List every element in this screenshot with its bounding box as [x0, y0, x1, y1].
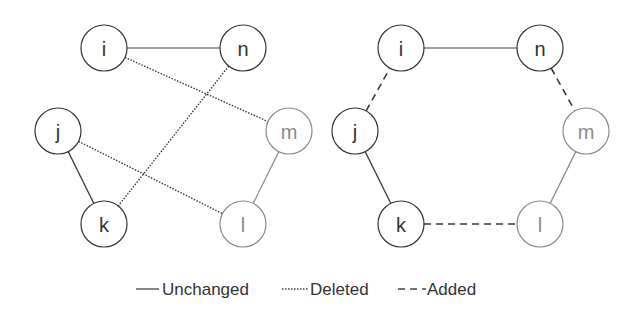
- node-after-n: n: [517, 25, 563, 71]
- node-after-m: m: [563, 108, 609, 154]
- legend-label-deleted: Deleted: [310, 280, 369, 299]
- nodes-layer: injmklinjmkl: [35, 25, 609, 247]
- node-label: j: [55, 121, 60, 143]
- legend-item-deleted: Deleted: [282, 280, 369, 299]
- legend-item-unchanged: Unchanged: [136, 280, 249, 299]
- edge-unchanged-m-l: [550, 152, 576, 204]
- node-after-i: i: [378, 25, 424, 71]
- node-after-l: l: [517, 201, 563, 247]
- node-before-m: m: [266, 108, 312, 154]
- node-before-j: j: [35, 108, 81, 154]
- node-label: j: [352, 121, 357, 143]
- edges-layer: [68, 48, 576, 224]
- edge-unchanged-j-k: [365, 152, 391, 204]
- edge-deleted-n-k: [118, 66, 228, 206]
- legend-label-unchanged: Unchanged: [162, 280, 249, 299]
- node-before-n: n: [220, 25, 266, 71]
- edge-added-j-i: [366, 68, 390, 111]
- edge-added-n-m: [551, 68, 575, 111]
- node-label: n: [237, 38, 248, 60]
- edge-unchanged-m-l: [253, 152, 279, 204]
- node-label: i: [102, 38, 106, 60]
- node-label: m: [578, 121, 595, 143]
- node-label: n: [534, 38, 545, 60]
- node-label: l: [538, 214, 542, 236]
- legend-item-added: Added: [398, 280, 476, 299]
- node-label: k: [396, 214, 407, 236]
- node-label: m: [281, 121, 298, 143]
- node-before-k: k: [81, 201, 127, 247]
- edge-unchanged-j-k: [68, 152, 94, 204]
- graph-diff-diagram: injmklinjmkl Unchanged Deleted Added: [0, 0, 635, 316]
- legend-label-added: Added: [427, 280, 476, 299]
- node-before-i: i: [81, 25, 127, 71]
- node-after-k: k: [378, 201, 424, 247]
- node-label: l: [241, 214, 245, 236]
- node-before-l: l: [220, 201, 266, 247]
- node-label: i: [399, 38, 403, 60]
- node-after-j: j: [332, 108, 378, 154]
- legend: Unchanged Deleted Added: [136, 280, 476, 299]
- node-label: k: [99, 214, 110, 236]
